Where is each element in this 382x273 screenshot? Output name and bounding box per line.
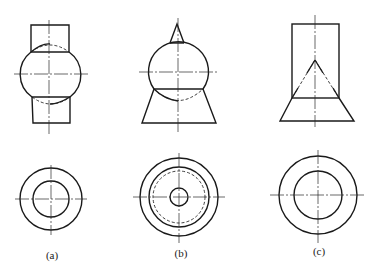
view-a-sphere-left <box>20 52 32 97</box>
view-a-sphere-right <box>69 52 81 97</box>
view-b-visible-arc <box>154 89 178 101</box>
view-c-visible-cone-left <box>307 60 315 73</box>
view-a-top <box>15 165 87 235</box>
view-c-visible-cone-right-lower <box>333 88 339 98</box>
label-c: (c) <box>313 245 326 258</box>
label-b: (b) <box>175 247 188 260</box>
view-b-frustum <box>142 89 216 123</box>
view-c-frustum <box>280 98 354 121</box>
label-a: (a) <box>46 249 59 262</box>
view-a-visible-arc-bottom <box>50 97 70 104</box>
view-c-top <box>270 150 366 243</box>
view-b-front <box>139 18 218 133</box>
view-c-visible-cone-left-lower <box>292 88 298 98</box>
technical-drawing: (a) (b) (c) <box>0 0 382 273</box>
view-b-top-cone <box>170 24 184 43</box>
view-a-front <box>14 20 88 134</box>
view-c-visible-cone-right <box>315 60 323 73</box>
view-b-sphere <box>149 42 209 89</box>
view-c-front <box>280 15 354 127</box>
view-b-top <box>133 153 225 243</box>
